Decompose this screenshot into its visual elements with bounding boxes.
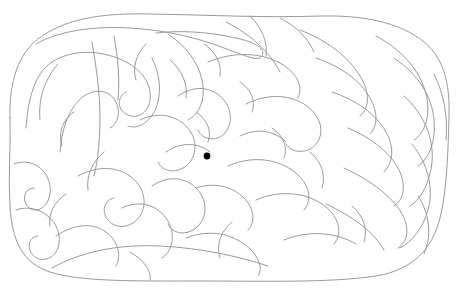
maze-canvas: [0, 0, 456, 302]
maze-center-dot: [204, 153, 211, 160]
maze-svg: [0, 0, 456, 302]
canvas-background: [0, 0, 456, 302]
